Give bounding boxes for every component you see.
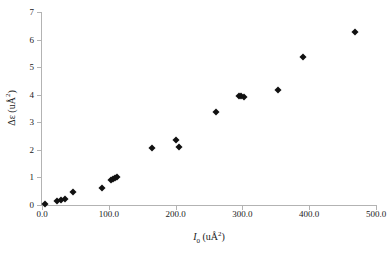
y-tick-mark	[37, 40, 41, 41]
y-tick-label: 3	[30, 118, 35, 127]
y-tick-label: 2	[30, 145, 35, 154]
y-tick-mark	[37, 95, 41, 96]
scatter-chart-figure: 0.0100.0200.0300.0400.0500.0 01234567 I0…	[0, 0, 389, 253]
y-tick-mark	[37, 12, 41, 13]
y-tick-label: 1	[30, 173, 35, 182]
y-axis-unit-open: (uÅ	[6, 97, 17, 115]
y-tick-mark	[37, 205, 41, 206]
x-tick-label: 0.0	[36, 210, 47, 219]
y-tick-label: 7	[30, 8, 35, 17]
x-axis-title: I0 (uÅ2)	[193, 231, 225, 245]
y-tick-label: 4	[30, 90, 35, 99]
y-tick-mark	[37, 177, 41, 178]
x-tick-label: 300.0	[232, 210, 252, 219]
y-tick-mark	[37, 67, 41, 68]
y-axis-title: Δε (uÅ2)	[5, 90, 16, 126]
y-tick-label: 6	[30, 35, 35, 44]
y-tick-label: 0	[30, 201, 35, 210]
x-axis-unit-close: )	[222, 231, 225, 242]
x-tick-label: 100.0	[99, 210, 119, 219]
y-axis-symbol: Δε	[6, 115, 17, 126]
x-tick-label: 500.0	[366, 210, 386, 219]
plot-area	[42, 12, 376, 205]
x-tick-label: 200.0	[165, 210, 185, 219]
y-axis-unit-close: )	[6, 90, 17, 93]
y-tick-label: 5	[30, 63, 35, 72]
x-tick-label: 400.0	[299, 210, 319, 219]
x-axis-line	[41, 205, 377, 206]
x-axis-unit-open: (uÅ	[200, 231, 218, 242]
y-tick-mark	[37, 122, 41, 123]
y-tick-mark	[37, 150, 41, 151]
y-axis-superscript: 2	[4, 94, 12, 98]
